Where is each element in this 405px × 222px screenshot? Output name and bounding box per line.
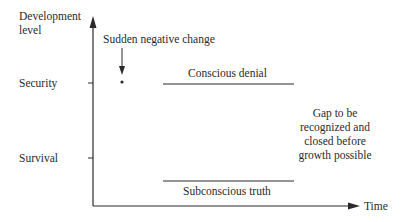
x-axis-arrowhead-icon xyxy=(348,203,360,210)
event-arrowhead-icon xyxy=(119,66,125,75)
gap-note-line: closed before xyxy=(280,134,390,148)
level-label-survival: Survival xyxy=(19,151,58,165)
y-axis-label-line1: Development xyxy=(19,9,81,23)
event-label: Sudden negative change xyxy=(103,32,215,46)
y-axis-arrowhead-icon xyxy=(90,16,97,28)
event-point xyxy=(120,80,123,83)
gap-note: Gap to be recognized and closed before g… xyxy=(280,106,390,162)
lower-line-label: Subconscious truth xyxy=(183,184,271,198)
level-label-security: Security xyxy=(19,76,57,90)
upper-line-label: Conscious denial xyxy=(188,66,267,80)
y-axis-label: Development level xyxy=(19,9,81,37)
gap-note-line: growth possible xyxy=(280,148,390,162)
x-axis-label: Time xyxy=(364,199,388,213)
y-axis-label-line2: level xyxy=(19,23,81,37)
gap-note-line: recognized and xyxy=(280,120,390,134)
gap-note-line: Gap to be xyxy=(280,106,390,120)
